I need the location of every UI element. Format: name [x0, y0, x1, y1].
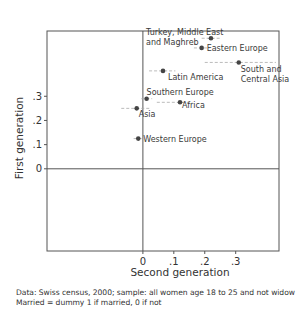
y-tick-label: .2	[32, 115, 42, 126]
point-label: Africa	[182, 101, 205, 110]
data-point: Southern Europe	[141, 88, 213, 101]
data-point: Africa	[157, 100, 205, 110]
point-label: Eastern Europe	[207, 44, 268, 53]
x-axis-label: Second generation	[100, 266, 260, 278]
y-axis-label: First generation	[13, 97, 25, 180]
y-tick-label: .1	[32, 139, 42, 150]
y-tick-label: 0	[36, 163, 42, 174]
point-marker	[199, 46, 204, 51]
axis-ticks: 0.1.2.30.1.2.3	[32, 91, 240, 267]
point-marker	[144, 96, 149, 101]
y-tick-label: .3	[32, 91, 42, 102]
caption-line-1: Data: Swiss census, 2000; sample: all wo…	[16, 288, 295, 298]
point-label: Latin America	[168, 73, 223, 82]
chart-caption: Data: Swiss census, 2000; sample: all wo…	[16, 288, 295, 308]
point-label: Western Europe	[143, 135, 207, 144]
point-marker	[136, 136, 141, 141]
data-point: Eastern Europe	[194, 44, 268, 53]
data-point: Latin America	[149, 69, 223, 82]
data-point: Western Europe	[134, 135, 207, 144]
data-points: Turkey, Middle Eastand MaghrebEastern Eu…	[121, 28, 289, 143]
point-marker	[236, 60, 241, 65]
point-label: South andCentral Asia	[241, 65, 290, 84]
point-label: Southern Europe	[147, 88, 214, 97]
caption-line-2: Married = dummy 1 if married, 0 if not	[16, 298, 295, 308]
point-label: Asia	[139, 110, 156, 119]
point-marker	[161, 69, 166, 74]
data-point: Asia	[121, 106, 155, 119]
